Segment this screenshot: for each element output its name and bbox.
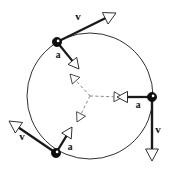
particle-dot-0 [52, 37, 61, 46]
radius-arrowhead-2 [77, 112, 86, 122]
velocity-label-0: v [75, 10, 81, 22]
circular-motion-figure: vavava [0, 0, 180, 169]
particle-highlight-0 [57, 40, 60, 43]
radius-lines-group [70, 74, 123, 122]
acceleration-arrowhead-1 [117, 91, 128, 102]
acceleration-label-0: a [56, 50, 61, 60]
acceleration-label-2: a [68, 142, 73, 152]
acceleration-label-1: a [136, 100, 141, 110]
radius-dashed-line-1 [90, 96, 114, 97]
particle-highlight-2 [56, 151, 59, 154]
acceleration-vectors-group [56, 42, 152, 153]
radius-dashed-line-2 [81, 96, 90, 114]
radius-dashed-line-0 [76, 81, 90, 96]
velocity-label-1: v [155, 123, 161, 135]
velocity-label-2: v [19, 130, 25, 142]
particle-dot-2 [51, 148, 60, 157]
particle-dot-1 [147, 92, 156, 101]
labels-group: vavava [19, 10, 161, 152]
figure-canvas: vavava [0, 0, 180, 169]
velocity-arrowhead-1 [146, 149, 159, 161]
velocity-shaft-0 [57, 18, 105, 42]
particle-highlight-1 [152, 95, 155, 98]
